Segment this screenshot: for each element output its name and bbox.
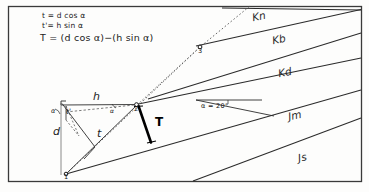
formula-line-3: T = (d cos α)−(h sin α): [40, 33, 153, 43]
point-label-2: 2: [134, 106, 138, 113]
formula-line-1: t = d cos α: [42, 12, 85, 20]
line-h-horizontal: [61, 105, 136, 106]
unit-label-kd: Kd: [277, 66, 292, 79]
measure-label-t-prime: t': [66, 108, 71, 116]
unit-label-jm: Jm: [287, 109, 302, 122]
point-label-3: 3: [198, 48, 202, 55]
measure-label-t: t: [97, 128, 101, 139]
angle-label-alpha-mid: α: [110, 108, 114, 114]
dip-angle-label: α = 20°: [201, 103, 228, 110]
measure-label-T: T: [155, 116, 163, 128]
unit-label-js: Js: [297, 151, 308, 163]
measure-label-h: h: [93, 91, 100, 102]
figure-root: t = d cos α t'= h sin α T = (d cos α)−(h…: [0, 0, 369, 192]
measure-label-d: d: [53, 126, 60, 137]
unit-label-kb: Kb: [271, 33, 286, 46]
angle-label-alpha-left: α: [51, 108, 55, 115]
unit-label-kn: Kn: [251, 10, 266, 23]
point-label-1: 1: [64, 174, 68, 181]
formula-line-2: t'= h sin α: [42, 22, 83, 30]
